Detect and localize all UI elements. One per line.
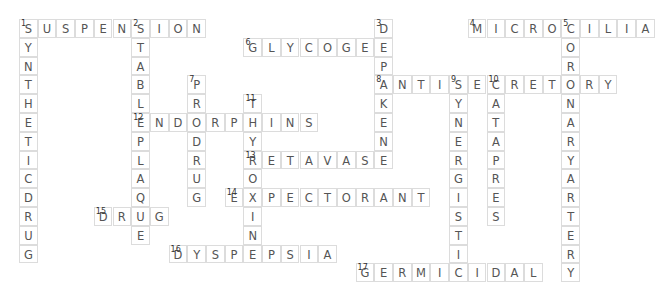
crossword-cell[interactable]: E	[131, 226, 150, 245]
crossword-cell[interactable]: R	[187, 151, 206, 170]
crossword-cell[interactable]: S	[206, 245, 225, 264]
crossword-cell[interactable]: C	[300, 188, 319, 207]
crossword-cell[interactable]: E	[374, 113, 393, 132]
crossword-cell[interactable]: Y	[281, 38, 300, 57]
crossword-cell[interactable]: U	[19, 226, 38, 245]
crossword-cell[interactable]: E	[468, 75, 487, 94]
crossword-cell[interactable]: A	[318, 245, 337, 264]
crossword-cell[interactable]: T	[487, 113, 506, 132]
crossword-cell[interactable]: P	[225, 245, 244, 264]
crossword-cell[interactable]: P	[374, 57, 393, 76]
crossword-cell[interactable]: O	[561, 38, 580, 57]
crossword-cell[interactable]: S	[56, 19, 75, 38]
crossword-cell[interactable]: R	[580, 75, 599, 94]
crossword-cell[interactable]: E	[281, 188, 300, 207]
crossword-cell[interactable]: N	[187, 19, 206, 38]
crossword-cell[interactable]: Y	[599, 75, 618, 94]
crossword-cell[interactable]: R	[187, 94, 206, 113]
crossword-cell[interactable]: Y	[561, 263, 580, 282]
crossword-cell[interactable]: A	[487, 132, 506, 151]
crossword-cell[interactable]: I	[262, 113, 281, 132]
crossword-cell[interactable]: R	[113, 207, 132, 226]
crossword-cell[interactable]: E	[262, 151, 281, 170]
crossword-cell[interactable]: H	[243, 113, 262, 132]
crossword-cell[interactable]: M	[412, 263, 431, 282]
crossword-cell[interactable]: 11T	[243, 94, 262, 113]
crossword-cell[interactable]: L	[131, 151, 150, 170]
crossword-cell[interactable]: R	[561, 245, 580, 264]
crossword-cell[interactable]: R	[524, 19, 543, 38]
crossword-cell[interactable]: U	[131, 207, 150, 226]
crossword-cell[interactable]: T	[281, 151, 300, 170]
crossword-cell[interactable]: S	[281, 245, 300, 264]
crossword-cell[interactable]: A	[337, 151, 356, 170]
crossword-cell[interactable]: X	[243, 188, 262, 207]
crossword-cell[interactable]: A	[131, 57, 150, 76]
crossword-cell[interactable]: 7P	[187, 75, 206, 94]
crossword-cell[interactable]: G	[150, 207, 169, 226]
crossword-cell[interactable]: L	[131, 94, 150, 113]
crossword-cell[interactable]: N	[113, 19, 132, 38]
crossword-cell[interactable]: T	[318, 188, 337, 207]
crossword-cell[interactable]: L	[599, 19, 618, 38]
crossword-cell[interactable]: 4M	[468, 19, 487, 38]
crossword-cell[interactable]: G	[187, 188, 206, 207]
crossword-cell[interactable]: T	[131, 38, 150, 57]
crossword-cell[interactable]: R	[561, 57, 580, 76]
crossword-cell[interactable]: S	[449, 207, 468, 226]
crossword-cell[interactable]: R	[449, 151, 468, 170]
crossword-cell[interactable]: N	[150, 113, 169, 132]
crossword-cell[interactable]: U	[38, 19, 57, 38]
crossword-cell[interactable]: S	[356, 151, 375, 170]
crossword-cell[interactable]: T	[449, 226, 468, 245]
crossword-cell[interactable]: 13R	[243, 151, 262, 170]
crossword-cell[interactable]: S	[487, 207, 506, 226]
crossword-cell[interactable]: N	[449, 113, 468, 132]
crossword-cell[interactable]: I	[617, 19, 636, 38]
crossword-cell[interactable]: 9S	[449, 75, 468, 94]
crossword-cell[interactable]: R	[561, 188, 580, 207]
crossword-cell[interactable]: E	[374, 38, 393, 57]
crossword-cell[interactable]: E	[374, 263, 393, 282]
crossword-cell[interactable]: O	[337, 188, 356, 207]
crossword-cell[interactable]: D	[169, 113, 188, 132]
crossword-cell[interactable]: H	[19, 94, 38, 113]
crossword-cell[interactable]: B	[131, 75, 150, 94]
crossword-cell[interactable]: I	[449, 188, 468, 207]
crossword-cell[interactable]: P	[131, 132, 150, 151]
crossword-cell[interactable]: I	[243, 207, 262, 226]
crossword-cell[interactable]: E	[94, 19, 113, 38]
crossword-cell[interactable]: T	[19, 132, 38, 151]
crossword-cell[interactable]: N	[393, 188, 412, 207]
crossword-cell[interactable]: P	[262, 188, 281, 207]
crossword-cell[interactable]: E	[449, 132, 468, 151]
crossword-cell[interactable]: R	[487, 169, 506, 188]
crossword-cell[interactable]: S	[300, 113, 319, 132]
crossword-cell[interactable]: T	[412, 75, 431, 94]
crossword-cell[interactable]: Y	[449, 94, 468, 113]
crossword-cell[interactable]: D	[19, 188, 38, 207]
crossword-cell[interactable]: C	[449, 263, 468, 282]
crossword-cell[interactable]: E	[374, 151, 393, 170]
crossword-cell[interactable]: 16D	[169, 245, 188, 264]
crossword-cell[interactable]: A	[505, 263, 524, 282]
crossword-cell[interactable]: K	[374, 94, 393, 113]
crossword-cell[interactable]: A	[561, 113, 580, 132]
crossword-cell[interactable]: D	[487, 263, 506, 282]
crossword-cell[interactable]: N	[243, 226, 262, 245]
crossword-cell[interactable]: G	[449, 169, 468, 188]
crossword-cell[interactable]: 15D	[94, 207, 113, 226]
crossword-cell[interactable]: I	[449, 245, 468, 264]
crossword-cell[interactable]: Q	[131, 188, 150, 207]
crossword-cell[interactable]: A	[131, 169, 150, 188]
crossword-cell[interactable]: G	[19, 245, 38, 264]
crossword-cell[interactable]: O	[561, 75, 580, 94]
crossword-cell[interactable]: P	[75, 19, 94, 38]
crossword-cell[interactable]: O	[318, 38, 337, 57]
crossword-cell[interactable]: R	[356, 188, 375, 207]
crossword-cell[interactable]: I	[430, 263, 449, 282]
crossword-cell[interactable]: N	[393, 75, 412, 94]
crossword-cell[interactable]: E	[561, 226, 580, 245]
crossword-cell[interactable]: R	[206, 113, 225, 132]
crossword-cell[interactable]: D	[187, 132, 206, 151]
